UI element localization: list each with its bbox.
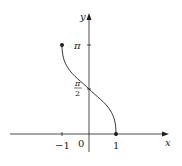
x-tick-label-1: 1 [113, 140, 119, 151]
origin-label: 0 [78, 138, 84, 149]
endpoint-dot-right [114, 132, 118, 136]
y-tick-label-pi-half-numerator: π [74, 79, 81, 88]
x-axis-label: x [165, 137, 171, 148]
endpoint-dot-left [60, 43, 64, 47]
y-axis-arrow-icon [87, 13, 92, 20]
y-tick-label-pi-half-denominator: 2 [75, 89, 80, 98]
x-axis-arrow-icon [162, 132, 169, 137]
x-tick-label-neg1: −1 [55, 140, 70, 151]
arccos-graph: y x −1 0 1 π π 2 [0, 0, 182, 166]
y-axis-label: y [79, 11, 86, 22]
y-tick-label-pi: π [73, 40, 81, 51]
